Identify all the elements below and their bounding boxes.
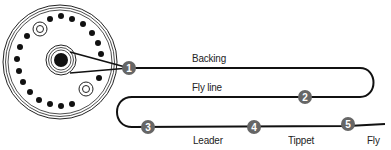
marker-2: 2 xyxy=(298,90,312,104)
fly-reel-icon xyxy=(3,5,117,119)
reel-screw-top xyxy=(33,22,47,36)
label-fly-line: Fly line xyxy=(192,81,222,93)
marker-3: 3 xyxy=(141,120,155,134)
svg-text:1: 1 xyxy=(126,63,132,74)
marker-1: 1 xyxy=(122,61,136,75)
svg-text:3: 3 xyxy=(145,122,151,133)
label-tippet: Tippet xyxy=(288,134,314,146)
svg-text:5: 5 xyxy=(345,119,351,130)
svg-text:4: 4 xyxy=(251,122,257,133)
marker-5: 5 xyxy=(341,117,355,131)
label-fly: Fly xyxy=(367,134,380,146)
diagram-canvas: 1 2 3 4 5 xyxy=(0,0,391,150)
svg-text:2: 2 xyxy=(302,92,308,103)
marker-4: 4 xyxy=(247,120,261,134)
reel-spindle xyxy=(46,45,76,75)
label-leader: Leader xyxy=(193,134,223,146)
label-backing: Backing xyxy=(192,52,226,64)
reel-screw-bottom xyxy=(79,82,93,96)
